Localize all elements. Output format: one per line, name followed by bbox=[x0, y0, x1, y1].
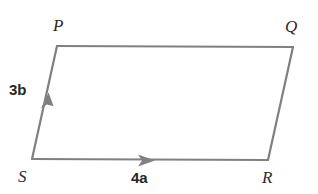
vector-label-3b: 3b bbox=[9, 82, 27, 97]
vector-label-4a: 4a bbox=[131, 170, 148, 185]
vertex-label-p: P bbox=[53, 17, 63, 34]
vertex-label-r: R bbox=[262, 169, 272, 186]
diagram-canvas bbox=[0, 0, 318, 194]
edge-QR bbox=[268, 47, 293, 160]
arrowhead-4a-icon bbox=[138, 155, 155, 167]
vertex-label-s: S bbox=[18, 168, 27, 185]
edge-PQ bbox=[57, 46, 293, 47]
vertex-label-q: Q bbox=[285, 18, 297, 35]
parallelogram-diagram: P Q R S 3b 4a bbox=[0, 0, 318, 194]
